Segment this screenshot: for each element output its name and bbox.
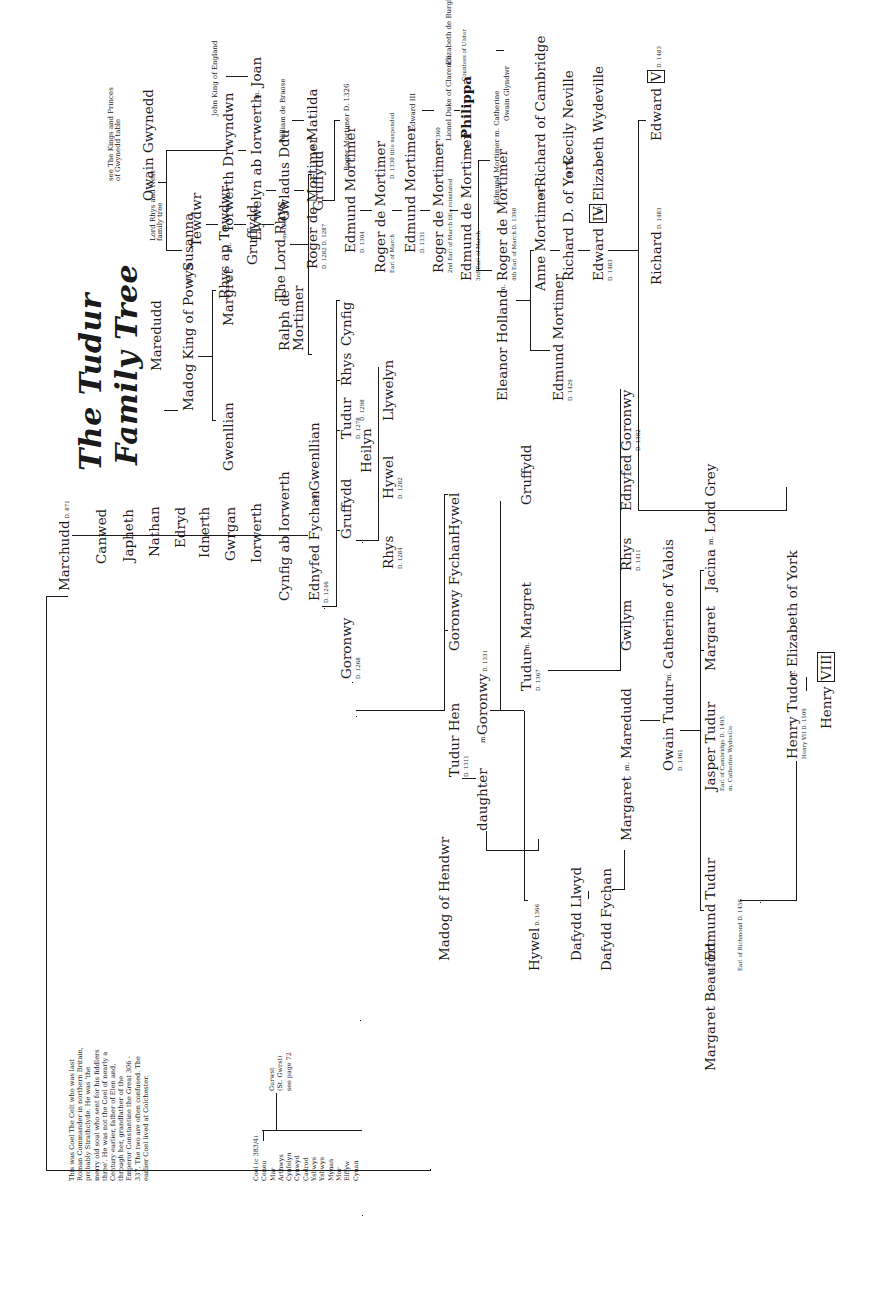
title-line-2: Family Tree (112, 264, 142, 465)
person-goronwy-fychan: Goronwy Fychan (448, 535, 462, 651)
person-cecily-neville: Cecily Neville (562, 70, 576, 165)
edmund-1331-death: D. 1331 (420, 231, 426, 253)
list-item: Cynwyd (293, 1135, 301, 1181)
person-roger-de-mortimer-1282: Roger de Mortimer (306, 137, 320, 269)
list-item: Cynfelyn (285, 1135, 293, 1181)
connector (638, 120, 646, 121)
connector (238, 150, 246, 151)
person-tudur-1367: Tudur (520, 650, 534, 692)
person-tudur-hen: Tudur Hen (448, 703, 462, 777)
person-madog-king-of-powys: Madog King of Powys (182, 263, 196, 411)
person-elizabeth-of-york: Elizabeth of York (786, 550, 800, 667)
person-margaret-a: Margaret (620, 776, 634, 841)
list-item: Mynan (327, 1135, 335, 1181)
connector (336, 300, 340, 301)
connector (548, 670, 620, 671)
edmund-tudur-title: Earl of Richmond D. 1456 (738, 899, 744, 971)
connector (578, 250, 590, 251)
owain-tudur-death: D. 1461 (678, 749, 684, 771)
connector (444, 495, 445, 711)
rhys-1284-death: D. 1284 (398, 547, 404, 569)
connector (362, 1215, 363, 1216)
connector (292, 120, 304, 121)
connector (46, 597, 47, 1171)
person-heilyn: Heilyn (360, 428, 374, 473)
connector (158, 182, 166, 183)
connector (806, 677, 807, 691)
person-jacina: Jacina (704, 549, 718, 591)
connector (360, 210, 372, 211)
connector (166, 250, 182, 251)
marriage-symbol: m. (708, 536, 715, 545)
person-john-king-of-england: John King of England (212, 41, 219, 116)
person-richard-of-cambridge: Richard of Cambridge (534, 36, 548, 187)
connector (420, 210, 430, 211)
person-catherine-of-valois: Catherine of Valois (662, 539, 676, 669)
list-item: Cynan (352, 1135, 360, 1181)
marriage-symbol: m. (524, 642, 531, 651)
marriage-symbol: m. (254, 90, 261, 99)
connector (444, 630, 448, 631)
list-item: Ceneu (260, 1135, 268, 1181)
coel-line-list: Coel (c 383/4) Ceneu Mar Arthwys Cynfely… (252, 1135, 360, 1181)
ednyfed-fychan-death: D. 1246 (324, 581, 330, 603)
connector (680, 730, 700, 731)
person-matilda: Matilda (306, 88, 320, 141)
person-rhys-a: Rhys (340, 353, 354, 386)
connector (786, 487, 787, 511)
goronwy-1268-death: D. 1268 (356, 657, 362, 679)
gwynedd-reference: see The Kings and Princes of Gwynedd tab… (108, 87, 122, 181)
connector (352, 682, 353, 683)
roger-1330-note: D. 1330 title suspended (390, 113, 396, 179)
person-goronwy-1331: GoronwyD. 1331 (476, 650, 490, 735)
person-lionel-duke-of-clarence: Lionel Duke of Clarence (446, 55, 453, 141)
rhys-1411-death: D. 1411 (636, 549, 642, 571)
connector (760, 902, 761, 903)
roger-2nd-earl-title: 2nd Earl of March title reinstated (448, 179, 454, 273)
person-iorwerth: Iorwerth (250, 503, 264, 563)
person-edmund-mortimer-1331: Edmund Mortimer (404, 126, 418, 253)
marriage-symbol: m. (310, 142, 317, 151)
person-marchudd: MarchuddD. 871 (58, 500, 72, 591)
jasper-tudur-spouse: m. Catherine Wydeville (728, 726, 734, 791)
connector (490, 710, 500, 711)
person-edward-v: Edward VD. 1483 (650, 46, 664, 141)
connector (378, 367, 379, 541)
person-owain-tudur: Owain Tudur (662, 682, 676, 771)
person-jasper-tudur: Jasper Tudur (704, 702, 718, 791)
reference-line: of Gwynedd table (115, 87, 122, 181)
person-gwladus-ddu: Gwladus Ddu (278, 130, 292, 221)
connector (550, 250, 560, 251)
list-item: (St. Gwrst) (276, 1052, 284, 1091)
connector (336, 430, 340, 431)
list-item: see page 72 (285, 1052, 293, 1091)
person-gwenllian-lord-rhys-daughter: Gwenllian (308, 422, 322, 491)
connector (336, 380, 340, 381)
person-tudur-1278: Tudur (340, 398, 354, 440)
person-margret-a: Margret (222, 269, 236, 326)
connector (444, 494, 448, 495)
person-maredudd-a: Maredudd (150, 300, 164, 371)
list-item: Elffyw (343, 1135, 351, 1181)
marriage-symbol: m. (790, 670, 797, 679)
person-roger-de-mortimer-2nd-earl: Roger de Mortimer (432, 141, 446, 273)
edmund-1429-death: D. 1429 (568, 379, 574, 401)
connector (334, 120, 340, 121)
person-maredudd-b: Maredudd (620, 688, 634, 759)
connector (422, 110, 434, 111)
person-cynfig-b: Cynfig (340, 302, 354, 346)
person-edmund-mortimer-1429: Edmund Mortimer (552, 274, 566, 401)
connector (164, 410, 178, 411)
person-canwed: Canwed (95, 509, 109, 564)
person-margaret-beaufort: Margaret Beaufort (704, 942, 718, 1071)
connector (198, 356, 212, 357)
marriage-symbol: m. (566, 168, 573, 177)
connector (263, 1131, 264, 1141)
person-gwilym: Gwilym (620, 600, 634, 651)
person-margaret-c: Margaret (704, 606, 718, 671)
connector (322, 606, 336, 607)
connector (638, 510, 786, 511)
family-tree-canvas: The Tudur Family Tree This was Coel The … (0, 0, 893, 1291)
connector (336, 530, 340, 531)
connector (496, 50, 504, 51)
